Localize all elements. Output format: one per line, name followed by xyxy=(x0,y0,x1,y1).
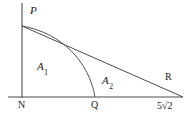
region-label-a1-subscript: 1 xyxy=(44,68,48,77)
geometry-figure: P N Q R A1 A2 5√2 xyxy=(0,0,192,117)
region-label-a1: A1 xyxy=(37,61,47,75)
point-label-p: P xyxy=(30,5,37,16)
axis-length-label: 5√2 xyxy=(157,101,173,111)
region-label-a2: A2 xyxy=(102,75,112,89)
region-label-a2-base: A xyxy=(102,74,109,86)
point-label-n: N xyxy=(18,100,25,110)
arc-p-to-q xyxy=(22,26,95,97)
point-label-r: R xyxy=(165,72,172,82)
region-label-a2-subscript: 2 xyxy=(109,82,113,91)
point-label-q: Q xyxy=(91,100,98,110)
region-label-a1-base: A xyxy=(37,60,44,72)
